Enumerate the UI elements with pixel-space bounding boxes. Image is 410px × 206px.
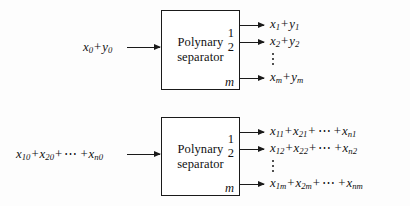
top-output-label-2: x2+y2 [270, 35, 299, 48]
bottom-output-label-m: x1m+x2m+⋯+xnm [270, 177, 363, 190]
bottom-output-arrow-2 [240, 149, 264, 150]
top-input-arrow [127, 47, 160, 48]
top-output-label-m: xm+ym [270, 71, 303, 84]
top-polynary-separator-block: Polynary separator 1 2 m [161, 10, 240, 90]
bottom-output-arrow-m [240, 184, 264, 185]
bottom-output-arrow-1 [240, 132, 264, 133]
bottom-output-label-1: x11+x21+⋯+xn1 [270, 125, 356, 138]
top-port-label-m: m [225, 76, 234, 89]
bottom-output-label-2: x12+x22+⋯+xn2 [270, 142, 357, 155]
bottom-input-arrow [127, 154, 160, 155]
figure-canvas: x0+y0 x₀ + y₀ Polynary separator 1 2 m x… [0, 0, 410, 206]
bottom-port-label-m: m [225, 182, 234, 195]
bottom-polynary-separator-block: Polynary separator 1 2 m [161, 117, 240, 196]
top-input-label: x0+y0 [83, 41, 112, 54]
top-output-label-1: x1+y1 [270, 18, 299, 31]
top-vertical-ellipsis-icon [272, 53, 275, 68]
bottom-input-label: x10+x20+⋯+xn0 [16, 148, 103, 161]
top-output-arrow-2 [240, 42, 264, 43]
bottom-port-label-1: 1 [228, 133, 234, 146]
top-port-label-1: 1 [228, 27, 234, 40]
bottom-port-label-2: 2 [228, 147, 234, 160]
top-port-label-2: 2 [228, 41, 234, 54]
bottom-vertical-ellipsis-icon [272, 160, 275, 175]
top-output-arrow-1 [240, 25, 264, 26]
top-output-arrow-m [240, 78, 264, 79]
